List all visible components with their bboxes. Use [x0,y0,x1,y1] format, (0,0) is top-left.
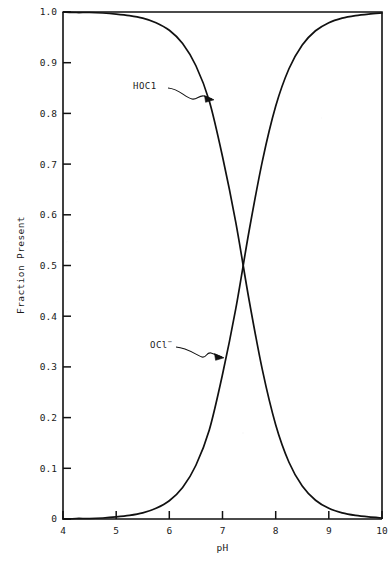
y-tick-label: 0.8 [40,108,57,119]
y-tick-label: 0.3 [40,361,57,372]
ocl-label-superscript: − [168,338,173,346]
x-tick-label: 6 [166,525,172,536]
y-tick-label: 0 [51,513,57,524]
chart-figure: 1.0 0.9 0.8 0.7 0.6 0.5 0.4 0.3 0.2 0.1 … [0,0,392,562]
y-tick-label: 0.1 [40,463,57,474]
x-tick-label: 5 [113,525,119,536]
x-tick-label: 10 [376,525,388,536]
hocl-label: HOC1 [133,81,157,91]
y-tick-label: 0.4 [40,311,57,322]
ocl-arrowhead [215,354,225,361]
y-tick-label: 0.6 [40,209,57,220]
y-tick-label: 0.2 [40,412,57,423]
y-tick-label: 0.7 [40,159,57,170]
plot-frame [63,12,382,519]
frame-top-right [63,12,382,519]
chart-svg: 1.0 0.9 0.8 0.7 0.6 0.5 0.4 0.3 0.2 0.1 … [0,0,392,562]
x-tick-labels: 4 5 6 7 8 9 10 [60,525,388,536]
ocl-label-text: OCl [150,340,168,350]
x-axis-title: pH [216,542,228,553]
axis-lines [63,12,382,519]
x-tick-label: 9 [326,525,332,536]
y-tick-label: 0.9 [40,57,57,68]
curve-hocl [63,12,382,518]
y-tick-marks [63,12,71,519]
y-tick-labels: 1.0 0.9 0.8 0.7 0.6 0.5 0.4 0.3 0.2 0.1 … [40,6,57,524]
ocl-annotation: OCl− [150,338,224,360]
curve-ocl [63,13,382,519]
x-tick-label: 4 [60,525,66,536]
y-axis-title: Fraction Present [15,216,26,314]
hocl-arrowhead [205,96,215,103]
hocl-annotation: HOC1 [133,81,214,102]
ocl-label: OCl− [150,338,172,350]
y-tick-label: 1.0 [40,6,57,17]
x-tick-label: 8 [273,525,279,536]
y-tick-label: 0.5 [40,260,57,271]
x-tick-label: 7 [220,525,226,536]
